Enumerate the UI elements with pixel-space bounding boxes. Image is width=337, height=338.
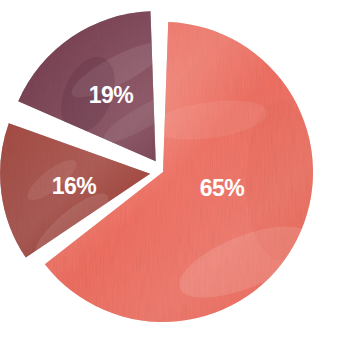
pie-chart-canvas: 65% 16% 19%: [0, 0, 337, 338]
pie-slice-16-label: 16%: [52, 173, 97, 199]
pie-slice-65-label: 65%: [200, 175, 245, 201]
pie-chart: 65% 16% 19%: [0, 0, 337, 338]
pie-slice-19-label: 19%: [89, 82, 134, 108]
